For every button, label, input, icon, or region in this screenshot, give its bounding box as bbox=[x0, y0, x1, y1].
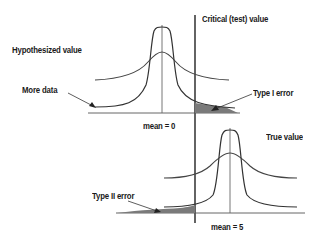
type1-arrow bbox=[215, 94, 252, 109]
type1-error-label: Type I error bbox=[253, 87, 293, 98]
mean-zero-label: mean = 0 bbox=[143, 120, 175, 131]
bottom-wide-curve bbox=[164, 153, 297, 178]
critical-value-label: Critical (test) value bbox=[202, 13, 268, 24]
type2-error-label: Type II error bbox=[92, 190, 134, 201]
hypothesis-test-diagram bbox=[0, 0, 320, 236]
mean-five-label: mean = 5 bbox=[211, 221, 243, 232]
more-data-arrowhead bbox=[89, 102, 96, 108]
true-value-label: True value bbox=[266, 131, 303, 142]
more-data-label: More data bbox=[22, 84, 57, 95]
type2-arrow bbox=[128, 201, 157, 211]
hypothesized-value-label: Hypothesized value bbox=[12, 44, 82, 55]
top-narrow-curve bbox=[95, 27, 235, 108]
more-data-arrow bbox=[68, 93, 93, 106]
